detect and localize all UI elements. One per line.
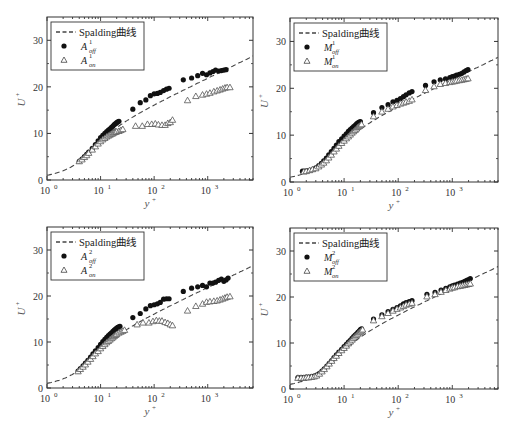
svg-text:0: 0: [297, 392, 301, 400]
svg-text:3: 3: [215, 391, 219, 399]
svg-text:1: 1: [351, 185, 355, 193]
filled-circle-icon: [61, 43, 66, 48]
x-axis-label: y: [144, 197, 150, 209]
x-tick-label: 10: [201, 393, 211, 404]
data-point: [184, 97, 190, 103]
y-axis-label: U: [258, 99, 270, 108]
svg-text:on: on: [332, 62, 339, 69]
figure-canvas: 0102030100101102103y+U+Spalding曲线A1offA1…: [0, 0, 519, 439]
series-m-on-2: [295, 280, 474, 380]
legend-label-spalding: Spalding曲线: [322, 237, 380, 249]
svg-text:+: +: [257, 94, 265, 98]
svg-text:1: 1: [332, 39, 335, 46]
data-point: [140, 319, 146, 325]
svg-text:2: 2: [332, 263, 335, 270]
data-point: [130, 315, 135, 320]
svg-text:on: on: [89, 61, 96, 68]
svg-text:2: 2: [405, 185, 409, 193]
data-point: [181, 77, 186, 82]
data-point: [138, 100, 143, 105]
legend-label-on: A: [80, 265, 88, 276]
x-axis-label: y: [388, 199, 394, 211]
x-tick-label: 10: [391, 187, 401, 198]
svg-text:+: +: [152, 404, 156, 412]
svg-text:0: 0: [54, 391, 58, 399]
svg-text:1: 1: [351, 392, 355, 400]
svg-text:3: 3: [459, 392, 463, 400]
data-point: [422, 87, 428, 93]
data-point: [193, 303, 199, 309]
data-point: [431, 83, 437, 89]
data-point: [130, 107, 135, 112]
y-tick-label: 20: [276, 83, 286, 94]
data-point: [189, 75, 194, 80]
data-point: [379, 109, 385, 115]
svg-text:0: 0: [297, 185, 301, 193]
chart-panel-top-left: 0102030100101102103y+U+Spalding曲线A1offA1…: [14, 17, 254, 209]
series-a-off-2: [75, 275, 230, 373]
data-point: [184, 308, 190, 314]
spalding-curve: [290, 57, 499, 177]
svg-text:2: 2: [89, 262, 92, 269]
x-tick-label: 10: [40, 393, 50, 404]
x-tick-label: 10: [201, 185, 211, 196]
svg-text:1: 1: [332, 53, 335, 60]
legend-label-spalding: Spalding曲线: [79, 236, 137, 248]
svg-text:+: +: [257, 303, 265, 307]
svg-text:2: 2: [161, 391, 165, 399]
legend-label-spalding: Spalding曲线: [79, 26, 137, 38]
chart-panel-bottom-left: 0102030100101102103y+U+Spalding曲线A2offA2…: [14, 227, 254, 417]
y-tick-label: 10: [276, 130, 286, 141]
data-point: [117, 324, 122, 329]
x-tick-label: 10: [40, 185, 50, 196]
legend-label-on: A: [80, 55, 88, 66]
data-point: [138, 311, 143, 316]
x-tick-label: 10: [147, 185, 157, 196]
y-tick-label: 30: [276, 246, 286, 257]
data-point: [370, 113, 376, 119]
x-tick-label: 10: [445, 394, 455, 405]
x-axis-label: y: [388, 406, 394, 418]
y-tick-label: 30: [276, 36, 286, 47]
legend-label-off: A: [80, 41, 88, 52]
svg-text:3: 3: [459, 185, 463, 193]
x-tick-label: 10: [391, 394, 401, 405]
filled-circle-icon: [304, 254, 309, 259]
x-tick-label: 10: [337, 394, 347, 405]
x-tick-label: 10: [94, 185, 104, 196]
x-tick-label: 10: [445, 187, 455, 198]
filled-circle-icon: [304, 44, 309, 49]
legend: Spalding曲线A2offA2on: [51, 232, 144, 280]
y-tick-label: 10: [33, 337, 43, 348]
data-point: [225, 275, 230, 280]
data-point: [223, 67, 228, 72]
data-point: [181, 289, 186, 294]
y-tick-label: 10: [33, 128, 43, 139]
data-point: [166, 86, 171, 91]
svg-text:2: 2: [89, 248, 92, 255]
legend: Spalding曲线M1offM1on: [294, 23, 387, 71]
legend-label-off: A: [80, 251, 88, 262]
y-tick-label: 10: [276, 338, 286, 349]
data-point: [143, 97, 148, 102]
series-m-on-1: [301, 75, 472, 174]
y-axis-label: U: [258, 307, 270, 316]
y-axis-label: U: [15, 306, 27, 315]
svg-text:1: 1: [108, 183, 112, 191]
y-tick-label: 30: [33, 245, 43, 256]
chart-panel-top-right: 0102030100101102103y+U+Spalding曲线M1offM1…: [257, 18, 499, 211]
svg-text:2: 2: [332, 249, 335, 256]
data-point: [166, 296, 171, 301]
svg-text:+: +: [396, 405, 400, 413]
data-point: [465, 67, 470, 72]
x-tick-label: 10: [94, 393, 104, 404]
svg-text:1: 1: [108, 391, 112, 399]
svg-text:+: +: [14, 93, 22, 97]
data-point: [132, 123, 138, 129]
y-axis-label: U: [15, 97, 27, 106]
legend: Spalding曲线A1offA1on: [51, 22, 144, 70]
data-point: [189, 286, 194, 291]
data-point: [195, 73, 200, 78]
series-a-off-1: [77, 67, 229, 164]
y-tick-label: 20: [276, 292, 286, 303]
